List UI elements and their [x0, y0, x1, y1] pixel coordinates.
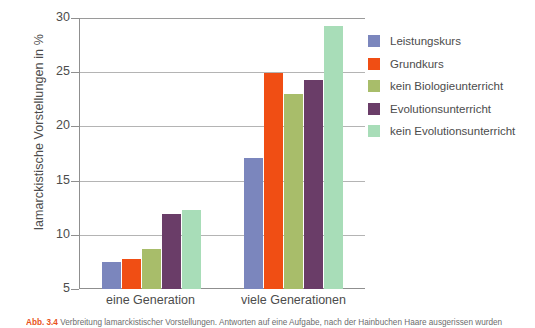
y-axis-title: lamarckistische Vorstellungen in %	[32, 7, 46, 257]
bar	[102, 262, 121, 289]
bar	[304, 80, 323, 289]
x-axis-label: viele Generationen	[222, 293, 365, 307]
legend-label: Leistungskurs	[390, 35, 461, 47]
y-axis-tick-label: 5	[36, 282, 70, 295]
legend-item[interactable]: Evolutionsunterricht	[368, 98, 515, 121]
legend-label: Evolutionsunterricht	[390, 103, 491, 115]
bar-group	[80, 18, 223, 289]
y-axis-tick-label: 20	[36, 119, 70, 132]
bar	[122, 259, 141, 289]
y-axis-tick	[71, 18, 79, 19]
legend-label: kein Evolutionsunterricht	[390, 125, 515, 137]
y-axis-tick	[71, 72, 79, 73]
bar	[162, 214, 181, 289]
caption-number: Abb. 3.4	[26, 318, 58, 327]
y-axis-tick	[71, 289, 79, 290]
y-axis-tick	[71, 126, 79, 127]
bar	[264, 73, 283, 289]
y-axis-tick-label: 10	[36, 228, 70, 241]
x-axis-labels: eine Generationviele Generationen	[79, 293, 365, 307]
legend-label: Grundkurs	[390, 58, 444, 70]
plot-area: 51015202530	[79, 18, 365, 289]
bar-groups	[80, 18, 365, 289]
legend-label: kein Biologieunterricht	[390, 80, 503, 92]
bar	[284, 94, 303, 289]
bar	[244, 158, 263, 289]
x-axis-label: eine Generation	[79, 293, 222, 307]
legend-swatch-icon	[368, 103, 380, 115]
legend-swatch-icon	[368, 35, 380, 47]
caption-text: Verbreitung lamarckistischer Vorstellung…	[60, 318, 502, 327]
legend-swatch-icon	[368, 80, 380, 92]
bar	[324, 26, 343, 289]
figure-caption: Abb. 3.4 Verbreitung lamarckistischer Vo…	[26, 317, 535, 328]
bar-group	[223, 18, 366, 289]
legend-item[interactable]: Grundkurs	[368, 53, 515, 76]
y-axis-tick	[71, 235, 79, 236]
figure-bar-chart: lamarckistische Vorstellungen in % 51015…	[0, 0, 535, 328]
legend-swatch-icon	[368, 58, 380, 70]
legend-swatch-icon	[368, 125, 380, 137]
legend-item[interactable]: kein Evolutionsunterricht	[368, 120, 515, 143]
bar	[142, 249, 161, 289]
legend-item[interactable]: Leistungskurs	[368, 30, 515, 53]
y-axis-tick	[71, 181, 79, 182]
legend: LeistungskursGrundkurskein Biologieunter…	[368, 30, 515, 143]
y-axis-tick-label: 30	[36, 11, 70, 24]
y-axis-tick-label: 25	[36, 65, 70, 78]
legend-item[interactable]: kein Biologieunterricht	[368, 75, 515, 98]
y-axis-tick-label: 15	[36, 174, 70, 187]
bar	[182, 210, 201, 289]
